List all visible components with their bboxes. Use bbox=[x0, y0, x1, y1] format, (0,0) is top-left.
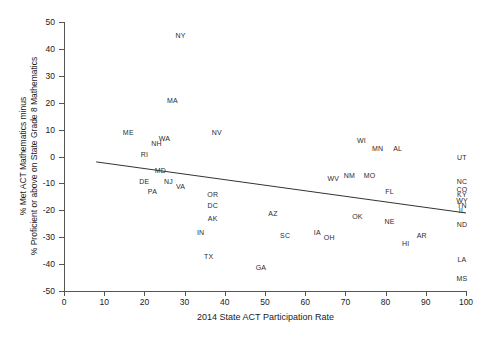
data-point-label: MO bbox=[364, 172, 376, 179]
x-tick-mark bbox=[345, 291, 346, 296]
x-tick-label: 80 bbox=[373, 298, 399, 307]
data-point-label: AR bbox=[417, 231, 427, 238]
data-point-label: NJ bbox=[164, 177, 173, 184]
data-point-label: IA bbox=[314, 228, 321, 235]
x-tick-label: 30 bbox=[172, 298, 198, 307]
data-point-label: NY bbox=[176, 32, 186, 39]
x-tick-mark bbox=[144, 291, 145, 296]
plot-area: NYMAMENVWANHWIMNALRIUTMDWVNMMODENJVANCPA… bbox=[64, 22, 466, 291]
x-tick-mark bbox=[265, 291, 266, 296]
data-point-label: NC bbox=[457, 177, 468, 184]
data-point-label: MA bbox=[167, 97, 178, 104]
x-tick-mark bbox=[185, 291, 186, 296]
x-tick-label: 70 bbox=[332, 298, 358, 307]
data-point-label: AL bbox=[393, 145, 402, 152]
x-axis-title: 2014 State ACT Participation Rate bbox=[64, 312, 467, 322]
x-tick-mark bbox=[64, 291, 65, 296]
data-point-label: SC bbox=[280, 231, 290, 238]
data-point-label: NE bbox=[385, 218, 395, 225]
x-tick-label: 50 bbox=[252, 298, 278, 307]
x-tick-label: 40 bbox=[212, 298, 238, 307]
data-point-label: OH bbox=[324, 234, 335, 241]
x-tick-label: 20 bbox=[131, 298, 157, 307]
data-point-label: MD bbox=[155, 166, 166, 173]
data-point-label: HI bbox=[402, 239, 409, 246]
data-point-label: UT bbox=[457, 153, 467, 160]
x-tick-mark bbox=[225, 291, 226, 296]
data-point-label: TX bbox=[204, 253, 213, 260]
data-point-label: VA bbox=[176, 183, 185, 190]
data-point-label: GA bbox=[256, 263, 267, 270]
x-tick-label: 10 bbox=[91, 298, 117, 307]
data-point-label: LA bbox=[457, 255, 466, 262]
data-point-label: NM bbox=[344, 172, 355, 179]
data-point-label: AZ bbox=[268, 209, 277, 216]
x-tick-mark bbox=[104, 291, 105, 296]
data-point-label: ME bbox=[123, 129, 134, 136]
data-point-label: DE bbox=[139, 177, 149, 184]
x-tick-label: 100 bbox=[453, 298, 479, 307]
data-point-label: IL bbox=[459, 207, 465, 214]
y-axis-title: % Met ACT Mathematics minus % Proficient… bbox=[18, 16, 40, 296]
data-point-label: FL bbox=[385, 188, 394, 195]
data-point-label: MN bbox=[372, 145, 383, 152]
x-tick-mark bbox=[386, 291, 387, 296]
data-point-label: RI bbox=[141, 150, 148, 157]
data-point-label: IN bbox=[197, 228, 204, 235]
x-tick-mark bbox=[305, 291, 306, 296]
y-axis-title-line2: % Proficient or above on State Grade 8 M… bbox=[29, 16, 40, 296]
data-point-label: DC bbox=[207, 201, 218, 208]
data-point-label: AK bbox=[208, 215, 218, 222]
data-point-label: PA bbox=[148, 188, 157, 195]
scatter-plot-figure: -50-40-30-20-1001020304050 0102030405060… bbox=[0, 0, 486, 339]
y-axis-title-line1: % Met ACT Mathematics minus bbox=[18, 16, 29, 296]
data-point-label: OR bbox=[207, 191, 218, 198]
data-point-label: OK bbox=[352, 212, 363, 219]
data-point-label: WI bbox=[357, 137, 366, 144]
x-tick-label: 90 bbox=[413, 298, 439, 307]
data-point-label: NV bbox=[212, 129, 222, 136]
x-tick-mark bbox=[426, 291, 427, 296]
x-tick-mark bbox=[466, 291, 467, 296]
data-point-label: NH bbox=[151, 140, 162, 147]
data-point-label: WV bbox=[327, 175, 339, 182]
x-tick-label: 0 bbox=[51, 298, 77, 307]
data-point-label: ND bbox=[457, 220, 468, 227]
x-tick-label: 60 bbox=[292, 298, 318, 307]
data-point-label: MS bbox=[457, 274, 468, 281]
